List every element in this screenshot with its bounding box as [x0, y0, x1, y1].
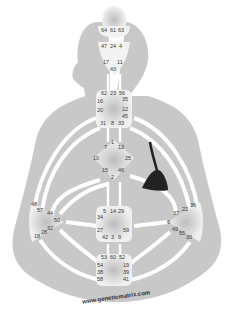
gate-label: 38 — [97, 270, 103, 276]
gate-label: 58 — [97, 277, 103, 283]
gate-label: 50 — [54, 218, 60, 224]
gate-label: 47 — [101, 44, 107, 50]
gate-label: 33 — [118, 121, 124, 127]
gate-label: 20 — [97, 108, 103, 114]
gate-label: 31 — [100, 121, 106, 127]
gate-label: 46 — [118, 168, 124, 174]
gate-label: 28 — [41, 230, 47, 236]
gate-label: 2 — [111, 175, 114, 181]
gate-label: 57 — [37, 208, 43, 214]
gate-label: 12 — [122, 107, 128, 113]
gate-label: 14 — [110, 209, 116, 215]
gate-label: 41 — [123, 277, 129, 283]
gate-label: 39 — [123, 270, 129, 276]
gate-label: 59 — [123, 228, 129, 234]
bodygraph-svg: www.geneticmatrix.com — [0, 0, 233, 315]
gate-label: 52 — [119, 255, 125, 261]
gate-label: 5 — [103, 209, 106, 215]
gate-label: 16 — [97, 99, 103, 105]
gate-label: 30 — [186, 235, 192, 241]
gate-label: 64 — [101, 28, 107, 34]
gate-label: 55 — [179, 231, 185, 237]
gate-label: 7 — [104, 145, 107, 151]
gate-label: 6 — [167, 220, 170, 226]
gate-label: 62 — [101, 91, 107, 97]
gate-label: 53 — [101, 255, 107, 261]
gate-label: 54 — [97, 263, 103, 269]
gate-label: 37 — [173, 211, 179, 217]
gate-label: 49 — [172, 227, 178, 233]
gate-label: 13 — [118, 145, 124, 151]
gate-label: 32 — [47, 226, 53, 232]
gate-label: 23 — [110, 91, 116, 97]
gate-label: 27 — [97, 228, 103, 234]
gate-label: 10 — [93, 156, 99, 162]
gate-label: 4 — [119, 44, 122, 50]
gate-label: 8 — [111, 121, 114, 127]
gate-label: 11 — [117, 60, 123, 66]
gate-label: 25 — [125, 156, 131, 162]
gate-label: 35 — [122, 97, 128, 103]
gate-label: 63 — [118, 28, 124, 34]
gate-label: 9 — [118, 235, 121, 241]
gate-label: 60 — [110, 255, 116, 261]
gate-label: 29 — [118, 209, 124, 215]
gate-label: 44 — [47, 211, 53, 217]
gate-label: 24 — [110, 44, 116, 50]
gate-label: 22 — [182, 207, 188, 213]
gate-label: 43 — [110, 67, 116, 73]
gate-label: 61 — [110, 28, 116, 34]
gate-label: 15 — [102, 168, 108, 174]
gate-label: 36 — [190, 203, 196, 209]
gate-label: 18 — [34, 234, 40, 240]
gate-label: 17 — [103, 60, 109, 66]
gate-label: 19 — [123, 263, 129, 269]
gate-label: 3 — [111, 235, 114, 241]
gate-label: 34 — [97, 215, 103, 221]
gate-label: 42 — [102, 235, 108, 241]
gate-label: 1 — [111, 140, 114, 146]
gate-label: 45 — [122, 114, 128, 120]
bodygraph-diagram: www.geneticmatrix.com 646163472441711436… — [0, 0, 233, 315]
